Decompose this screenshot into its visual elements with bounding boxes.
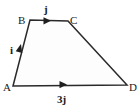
vector-label-3j: 3j [57,93,66,105]
vertex-label-a: A [3,81,11,93]
trapezium-fill [13,20,127,86]
vertex-label-b: B [18,14,25,26]
vector-label-j: j [43,3,48,15]
vertex-label-d: D [129,81,137,93]
trapezium-figure: A B C D i j 3j [0,0,140,105]
vector-label-i: i [10,44,13,56]
vector-diagram-canvas: A B C D i j 3j [0,0,140,105]
vertex-label-c: C [70,14,77,26]
